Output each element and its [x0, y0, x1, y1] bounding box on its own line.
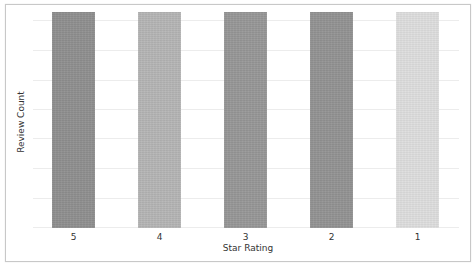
- bar-1-star: [396, 12, 439, 228]
- y-axis-label: Review Count: [16, 91, 26, 153]
- bar-4-stars: [138, 12, 181, 228]
- bar-3-stars: [224, 12, 267, 228]
- x-tick-label: 2: [310, 232, 353, 242]
- x-tick-label: 4: [138, 232, 181, 242]
- bar-2-stars: [310, 12, 353, 228]
- x-tick-label: 5: [52, 232, 95, 242]
- bar-5-stars: [52, 12, 95, 228]
- plot-area: [33, 12, 459, 228]
- x-axis-label: Star Rating: [0, 243, 476, 253]
- x-tick-label: 3: [224, 232, 267, 242]
- x-tick-label: 1: [396, 232, 439, 242]
